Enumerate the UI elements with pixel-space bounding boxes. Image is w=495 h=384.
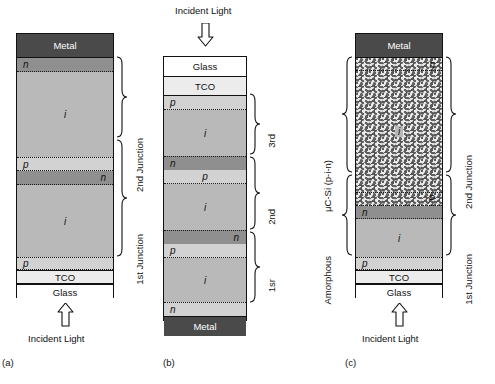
panel-c-stack: Metal n i P n i p TCO Glass [355, 33, 443, 298]
layer-label: i [204, 202, 206, 213]
panel-b-layer-p-2nd: p [164, 170, 246, 184]
panel-b-brace-1st [249, 231, 261, 303]
panel-c-brace-microcrystalline [341, 56, 353, 173]
layer-label: i [64, 109, 66, 120]
panel-b-incident-light-arrow [197, 23, 214, 47]
layer-label: Metal [193, 321, 216, 332]
layer-label: p [170, 245, 176, 256]
layer-label: i [204, 128, 206, 139]
panel-a-incident-light-arrow [57, 303, 74, 327]
panel-a-layer-i-bot: i [17, 185, 113, 257]
panel-c-brace-1st-junction [445, 174, 457, 257]
panel-c-brace-label-2nd: 2nd Junction [463, 155, 474, 209]
layer-label: p [202, 171, 208, 182]
layer-label: p [23, 159, 29, 170]
panel-b-layer-i-1st: i [164, 258, 246, 302]
panel-b-layer-metal: Metal [164, 316, 246, 336]
layer-label: n [170, 158, 176, 169]
panel-a-layer-n-bot: n [17, 171, 113, 185]
panel-b-brace-label-2nd: 2nd [266, 209, 277, 225]
panel-b-layer-n-3rd: n [164, 156, 246, 170]
panel-c-layer-p-uc: P [356, 192, 442, 206]
layer-label: i [398, 233, 400, 244]
panel-b-layer-p-3rd: p [164, 96, 246, 110]
layer-label: i [395, 126, 403, 137]
panel-c-brace-label-amorphous: Amorphous [322, 256, 333, 305]
layer-label: i [64, 216, 66, 227]
panel-a-layer-glass: Glass [17, 284, 113, 299]
panel-c-incident-light-label: Incident Light [362, 333, 419, 344]
layer-label: TCO [55, 272, 75, 283]
panel-c-brace-2nd-junction [445, 56, 457, 173]
panel-c-layer-glass: Glass [356, 284, 442, 299]
panel-c-incident-light-arrow [391, 303, 408, 327]
layer-label: TCO [389, 272, 409, 283]
panel-c-layer-n-a: n [356, 206, 442, 219]
layer-label: n [362, 207, 368, 218]
panel-b-brace-label-3rd: 3rd [266, 134, 277, 148]
layer-label: p [170, 97, 176, 108]
figure-root: Metal n i p n i p TCO Glass 2nd Jun [0, 0, 495, 384]
layer-label: n [23, 59, 29, 70]
panel-b-layer-i-2nd: i [164, 184, 246, 230]
panel-b-layer-n-2nd: n [164, 230, 246, 244]
layer-label: Glass [387, 287, 411, 298]
panel-b-layer-tco: TCO [164, 77, 246, 96]
panel-b-incident-light-label: Incident Light [175, 5, 232, 16]
panel-c-layer-i-a: i [356, 219, 442, 257]
panel-a-brace-label-2nd: 2nd Junction [134, 138, 145, 192]
layer-label: p [23, 258, 29, 269]
panel-a-caption: (a) [2, 357, 14, 368]
layer-label: n [170, 304, 176, 315]
panel-b-layer-glass: Glass [164, 57, 246, 77]
panel-c-brace-label-1st: 1st Junction [463, 254, 474, 305]
layer-label: n [100, 172, 106, 183]
panel-b-caption: (b) [163, 357, 175, 368]
panel-b-brace-3rd [249, 93, 261, 155]
layer-label: n [429, 59, 435, 70]
layer-label: p [362, 258, 368, 269]
panel-a-brace-1st-junction [116, 139, 128, 257]
layer-label: Glass [53, 287, 77, 298]
panel-b-layer-n-1st: n [164, 302, 246, 316]
panel-c-brace-label-microcrystalline: μC-Si (p-i-n) [322, 160, 333, 212]
layer-label: P [428, 194, 435, 205]
panel-b-layer-p-1st: p [164, 244, 246, 258]
panel-a-layer-i-top: i [17, 72, 113, 157]
panel-c-layer-tco: TCO [356, 270, 442, 284]
panel-c-brace-amorphous [341, 174, 353, 257]
panel-c-layer-p-a: p [356, 257, 442, 270]
panel-a-incident-light-label: Incident Light [28, 333, 85, 344]
panel-a-layer-metal: Metal [17, 34, 113, 58]
panel-a-layer-n-top: n [17, 58, 113, 72]
panel-a-stack: Metal n i p n i p TCO Glass [16, 33, 114, 298]
panel-c-caption: (c) [345, 357, 356, 368]
layer-label: Metal [53, 40, 76, 51]
layer-label: TCO [195, 81, 215, 92]
panel-b-brace-label-1st: 1sr [266, 279, 277, 292]
panel-c-layer-n-uc: n [356, 58, 442, 71]
panel-b-layer-i-3rd: i [164, 110, 246, 156]
layer-label: i [204, 275, 206, 286]
layer-label: n [233, 232, 239, 243]
panel-b-stack: Glass TCO p i n p i n p i n [163, 56, 247, 321]
panel-c-layer-metal: Metal [356, 34, 442, 58]
panel-a-brace-2nd-junction [116, 56, 128, 138]
layer-label: Metal [387, 40, 410, 51]
panel-a-layer-p-bot: p [17, 257, 113, 270]
layer-label: Glass [193, 61, 217, 72]
panel-a-layer-tco: TCO [17, 270, 113, 284]
panel-b-brace-2nd [249, 156, 261, 230]
panel-a-brace-label-1st: 1st Junction [134, 234, 145, 285]
panel-c-layer-i-uc: i [356, 71, 442, 192]
panel-a-layer-p-top: p [17, 157, 113, 171]
